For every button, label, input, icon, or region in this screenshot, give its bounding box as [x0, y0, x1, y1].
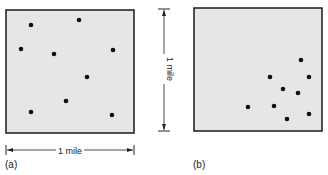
point-dot: [111, 48, 116, 53]
point-dot: [110, 113, 115, 118]
panel-a-area: [6, 10, 134, 133]
point-dot: [85, 75, 90, 80]
point-dot: [296, 91, 301, 96]
panel-a: [6, 10, 134, 133]
arrow-down-icon: [162, 124, 166, 130]
point-dot: [281, 87, 286, 92]
point-dot: [29, 23, 34, 28]
horizontal-scale-label: 1 mile: [58, 146, 82, 156]
vertical-scale-label: 1 mile: [165, 57, 175, 81]
point-dot: [29, 110, 34, 115]
point-dot: [64, 99, 69, 104]
arrow-up-icon: [162, 10, 166, 16]
horizontal-scale-bar: 1 mile: [6, 145, 134, 156]
point-dot: [268, 75, 273, 80]
point-dot: [246, 105, 251, 110]
point-dot: [77, 18, 82, 23]
point-pattern-figure: 1 mile (a) 1 mile (b): [0, 0, 328, 175]
point-dot: [272, 104, 277, 109]
panel-b-label: (b): [193, 159, 205, 170]
point-dot: [285, 117, 290, 122]
arrow-left-icon: [7, 148, 13, 152]
point-dot: [52, 52, 57, 57]
vertical-scale-bar: 1 mile: [158, 9, 175, 131]
arrow-right-icon: [127, 148, 133, 152]
point-dot: [19, 47, 24, 52]
panel-b-area: [194, 8, 322, 131]
point-dot: [307, 75, 312, 80]
panel-a-label: (a): [5, 159, 17, 170]
panel-b: [194, 8, 322, 131]
point-dot: [307, 112, 312, 117]
point-dot: [299, 58, 304, 63]
